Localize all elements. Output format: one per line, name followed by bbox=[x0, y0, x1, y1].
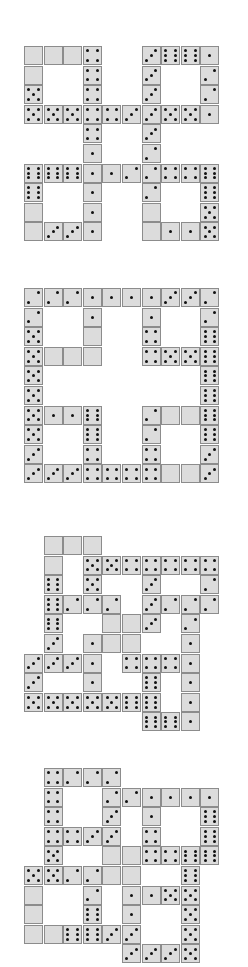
pip-icon bbox=[135, 468, 138, 471]
pip-icon bbox=[71, 113, 74, 116]
pip-icon bbox=[189, 642, 192, 645]
pip-icon bbox=[164, 568, 167, 571]
pip-icon bbox=[154, 681, 157, 684]
domino-half-0 bbox=[142, 203, 161, 222]
pip-icon bbox=[130, 296, 133, 299]
pip-icon bbox=[154, 598, 157, 601]
domino-half-1 bbox=[181, 222, 200, 241]
pip-icon bbox=[27, 167, 30, 170]
pip-icon bbox=[145, 676, 148, 679]
domino-half-5 bbox=[24, 406, 43, 425]
pip-icon bbox=[184, 627, 187, 630]
pip-icon bbox=[164, 167, 167, 170]
pip-icon bbox=[96, 928, 99, 931]
domino-half-5 bbox=[161, 347, 180, 366]
pip-icon bbox=[164, 898, 167, 901]
pip-icon bbox=[106, 477, 109, 480]
pip-icon bbox=[56, 226, 59, 229]
pip-icon bbox=[106, 840, 109, 843]
pip-icon bbox=[154, 657, 157, 660]
pip-icon bbox=[96, 88, 99, 91]
pip-icon bbox=[56, 840, 59, 843]
pip-icon bbox=[27, 108, 30, 111]
pip-icon bbox=[135, 568, 138, 571]
pip-icon bbox=[76, 696, 79, 699]
pip-icon bbox=[56, 603, 59, 606]
pip-icon bbox=[91, 211, 94, 214]
pip-icon bbox=[47, 666, 50, 669]
pip-icon bbox=[174, 666, 177, 669]
pip-icon bbox=[27, 98, 30, 101]
pip-icon bbox=[47, 588, 50, 591]
pip-icon bbox=[174, 360, 177, 363]
domino-half-4 bbox=[161, 654, 180, 673]
pip-icon bbox=[150, 132, 153, 135]
pip-icon bbox=[213, 830, 216, 833]
domino-half-3 bbox=[24, 445, 43, 464]
pip-icon bbox=[135, 948, 138, 951]
pip-icon bbox=[27, 191, 30, 194]
pip-icon bbox=[204, 172, 207, 175]
pip-icon bbox=[96, 598, 99, 601]
pip-icon bbox=[37, 191, 40, 194]
pip-icon bbox=[66, 666, 69, 669]
pip-icon bbox=[174, 657, 177, 660]
domino-half-4 bbox=[83, 105, 102, 124]
pip-icon bbox=[52, 854, 55, 857]
pip-icon bbox=[27, 666, 30, 669]
pip-icon bbox=[145, 157, 148, 160]
pip-icon bbox=[27, 879, 30, 882]
pip-icon bbox=[164, 608, 167, 611]
pip-icon bbox=[150, 113, 153, 116]
pip-icon bbox=[145, 588, 148, 591]
pip-icon bbox=[96, 49, 99, 52]
pip-icon bbox=[150, 894, 153, 897]
domino-half-6 bbox=[200, 827, 219, 846]
domino-half-6 bbox=[83, 425, 102, 444]
pip-icon bbox=[213, 335, 216, 338]
domino-half-6 bbox=[63, 925, 82, 944]
pip-icon bbox=[154, 409, 157, 412]
pip-icon bbox=[125, 176, 128, 179]
domino-half-0 bbox=[83, 327, 102, 346]
pip-icon bbox=[76, 108, 79, 111]
pip-icon bbox=[76, 840, 79, 843]
domino-half-5 bbox=[24, 425, 43, 444]
domino-half-5 bbox=[24, 866, 43, 885]
domino-half-3 bbox=[200, 445, 219, 464]
domino-half-0 bbox=[44, 556, 63, 575]
pip-icon bbox=[150, 622, 153, 625]
pip-icon bbox=[110, 701, 113, 704]
pip-icon bbox=[47, 603, 50, 606]
pip-icon bbox=[66, 301, 69, 304]
pip-icon bbox=[37, 311, 40, 314]
pip-icon bbox=[184, 167, 187, 170]
domino-half-0 bbox=[24, 905, 43, 924]
domino-half-6 bbox=[44, 164, 63, 183]
domino-half-4 bbox=[83, 66, 102, 85]
pip-icon bbox=[32, 355, 35, 358]
domino-half-4 bbox=[200, 556, 219, 575]
pip-icon bbox=[135, 706, 138, 709]
pip-icon bbox=[37, 448, 40, 451]
pip-icon bbox=[204, 206, 207, 209]
pip-icon bbox=[47, 859, 50, 862]
pip-icon bbox=[145, 59, 148, 62]
pip-icon bbox=[145, 350, 148, 353]
pip-icon bbox=[86, 898, 89, 901]
domino-half-6 bbox=[181, 866, 200, 885]
pip-icon bbox=[204, 588, 207, 591]
pip-icon bbox=[91, 701, 94, 704]
pip-icon bbox=[86, 938, 89, 941]
pip-icon bbox=[164, 859, 167, 862]
domino-half-0 bbox=[24, 925, 43, 944]
pip-icon bbox=[135, 666, 138, 669]
pip-icon bbox=[213, 854, 216, 857]
domino-half-3 bbox=[44, 464, 63, 483]
domino-half-0 bbox=[122, 614, 141, 633]
pip-icon bbox=[32, 374, 35, 377]
pip-icon bbox=[204, 389, 207, 392]
pip-icon bbox=[86, 128, 89, 131]
pip-icon bbox=[204, 399, 207, 402]
pip-icon bbox=[56, 657, 59, 660]
